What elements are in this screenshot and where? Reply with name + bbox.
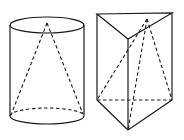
cone-left-edge: [11, 23, 47, 115]
pyramid-front-edge: [128, 19, 147, 130]
diagram-canvas: [0, 0, 184, 140]
cylinder-figure: [10, 17, 84, 124]
cylinder-top-ellipse: [10, 17, 84, 33]
pyramid-right-edge: [147, 19, 172, 100]
prism-bottom-left-edge: [97, 100, 128, 130]
prism-figure: [97, 13, 172, 130]
cylinder-bottom-back-arc: [10, 108, 84, 116]
cone-right-edge: [47, 23, 83, 114]
geometry-figures: [0, 0, 184, 140]
prism-top-face: [97, 13, 172, 39]
pyramid-left-edge: [97, 19, 147, 100]
prism-bottom-right-edge: [128, 100, 172, 130]
cylinder-bottom-front-arc: [10, 116, 84, 124]
